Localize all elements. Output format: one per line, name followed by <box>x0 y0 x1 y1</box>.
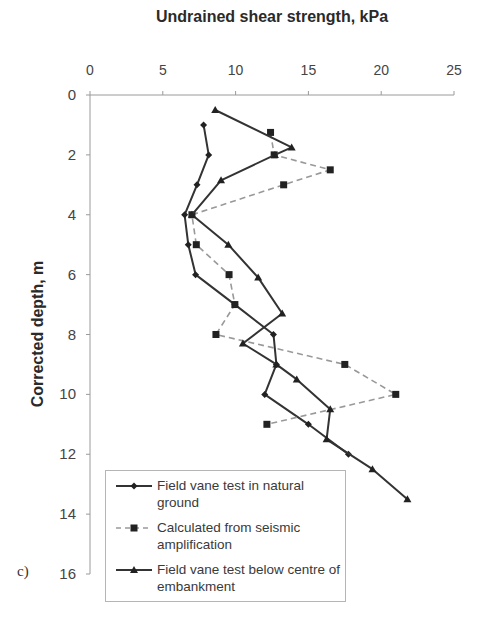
solid-line-triangle-icon <box>114 562 154 578</box>
data-point-square <box>263 421 270 428</box>
data-point-square <box>327 166 334 173</box>
data-point-diamond <box>185 241 192 248</box>
data-point-square <box>341 361 348 368</box>
data-point-square <box>280 181 287 188</box>
y-axis-title: Corrected depth, m <box>29 261 47 408</box>
series-triangle <box>188 106 411 502</box>
y-tick-label: 0 <box>68 86 76 103</box>
data-point-diamond <box>200 121 207 128</box>
x-axis-title: Undrained shear strength, kPa <box>90 8 454 26</box>
legend-item-embankment: Field vane test below centre of embankme… <box>114 561 344 595</box>
data-point-square <box>212 331 219 338</box>
x-tick-label: 20 <box>373 62 389 78</box>
x-tick-label: 5 <box>159 62 167 78</box>
x-tick-label: 25 <box>446 62 462 78</box>
data-point-diamond <box>181 211 188 218</box>
legend-label: Field vane test below centre of embankme… <box>157 561 344 595</box>
dashed-line-square-icon <box>114 520 154 536</box>
legend-item-seismic: Calculated from seismic amplification <box>114 519 344 553</box>
y-tick-label: 16 <box>59 565 76 582</box>
y-tick-label: 8 <box>68 326 76 343</box>
x-tick-label: 10 <box>228 62 244 78</box>
data-point-square <box>392 391 399 398</box>
data-point-diamond <box>194 181 201 188</box>
y-tick-label: 6 <box>68 266 76 283</box>
legend-item-natural-ground: Field vane test in natural ground <box>114 477 344 511</box>
y-tick-label: 2 <box>68 146 76 163</box>
x-tick-label: 15 <box>301 62 317 78</box>
series-square <box>188 129 399 428</box>
data-point-square <box>231 301 238 308</box>
panel-label: c) <box>17 563 29 580</box>
data-point-square <box>226 271 233 278</box>
x-tick-label: 0 <box>86 62 94 78</box>
legend-label: Calculated from seismic amplification <box>157 519 344 553</box>
solid-line-diamond-icon <box>114 478 154 494</box>
y-tick-label: 10 <box>59 385 76 402</box>
data-point-triangle <box>211 106 219 113</box>
data-point-square <box>193 241 200 248</box>
y-tick-label: 4 <box>68 206 76 223</box>
legend-label: Field vane test in natural ground <box>157 477 344 511</box>
data-point-diamond <box>205 151 212 158</box>
y-tick-label: 12 <box>59 445 76 462</box>
legend: Field vane test in natural ground Calcul… <box>105 470 346 602</box>
data-series <box>181 106 411 502</box>
y-tick-label: 14 <box>59 505 76 522</box>
